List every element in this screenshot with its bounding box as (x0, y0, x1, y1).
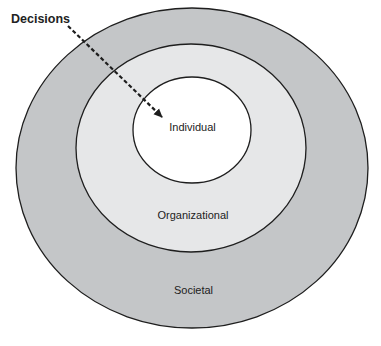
societal-label: Societal (174, 284, 213, 296)
decisions-label: Decisions (11, 12, 70, 26)
organizational-label: Organizational (158, 209, 229, 221)
individual-label: Individual (169, 121, 215, 133)
nested-levels-diagram: Decisions Individual Organizational Soci… (0, 0, 381, 346)
